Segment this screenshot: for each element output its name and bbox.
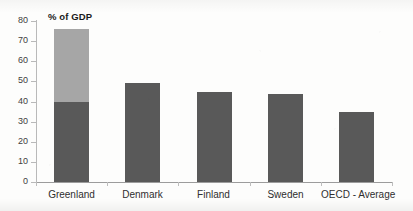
bar-sweden <box>268 94 303 182</box>
x-tick <box>178 182 179 186</box>
y-tick-60 <box>31 61 36 62</box>
y-tick-label: 80 <box>0 16 28 25</box>
x-axis-label: Finland <box>178 189 249 201</box>
y-axis-line <box>36 20 37 183</box>
x-axis-label: Sweden <box>250 189 321 201</box>
y-tick-label: 70 <box>0 36 28 45</box>
y-tick-30 <box>31 122 36 123</box>
x-tick <box>107 182 108 186</box>
y-tick-label: 30 <box>0 117 28 126</box>
y-tick-label: 20 <box>0 137 28 146</box>
series-label: % of GDP <box>48 11 92 22</box>
bar-oecd-average <box>339 112 374 182</box>
y-tick-label: 40 <box>0 97 28 106</box>
bar-segment-lower <box>197 92 232 182</box>
bar-segment-lower <box>125 83 160 182</box>
y-tick-70 <box>31 41 36 42</box>
bar-segment-upper <box>54 29 89 102</box>
y-tick-label: 10 <box>0 157 28 166</box>
bar-greenland <box>54 29 89 182</box>
y-tick-label: 60 <box>0 56 28 65</box>
bar-denmark <box>125 83 160 182</box>
x-tick <box>36 182 37 186</box>
y-tick-label: 50 <box>0 76 28 85</box>
y-tick-label: 0 <box>0 177 28 186</box>
y-tick-40 <box>31 102 36 103</box>
x-tick <box>250 182 251 186</box>
bar-segment-lower <box>54 102 89 182</box>
x-axis-label: Denmark <box>107 189 178 201</box>
y-tick-50 <box>31 81 36 82</box>
x-axis-label: OECD - Average <box>321 189 392 201</box>
bar-finland <box>197 92 232 182</box>
bar-chart: % of GDP 80706050403020100 GreenlandDenm… <box>0 0 413 211</box>
x-axis-label: Greenland <box>36 189 107 201</box>
y-tick-10 <box>31 162 36 163</box>
x-axis-baseline <box>36 182 392 183</box>
x-tick <box>321 182 322 186</box>
bar-segment-lower <box>268 94 303 182</box>
x-tick <box>392 182 393 186</box>
y-tick-80 <box>31 21 36 22</box>
y-tick-20 <box>31 142 36 143</box>
bar-segment-lower <box>339 112 374 182</box>
